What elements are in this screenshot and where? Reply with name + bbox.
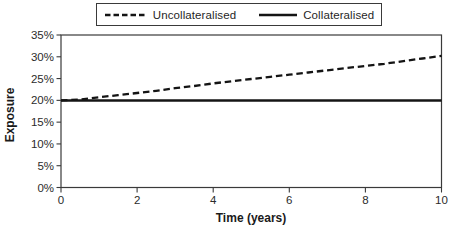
y-tick-label: 35% [31, 29, 54, 41]
x-tick-label: 2 [134, 194, 140, 206]
y-tick-label: 5% [37, 160, 54, 172]
plot-border [61, 35, 442, 188]
y-tick-label: 25% [31, 73, 54, 85]
plot-area: 0%5%10%15%20%25%30%35%0246810 [0, 0, 451, 238]
series-line-uncollateralised [61, 56, 442, 101]
y-tick-label: 20% [31, 94, 54, 106]
x-tick-label: 8 [362, 194, 368, 206]
x-tick-label: 6 [286, 194, 292, 206]
x-axis-title: Time (years) [216, 211, 286, 225]
x-tick-label: 10 [435, 194, 448, 206]
y-tick-label: 10% [31, 138, 54, 150]
x-tick-label: 4 [210, 194, 217, 206]
chart-figure: Uncollateralised Collateralised Exposure… [0, 0, 451, 238]
x-tick-label: 0 [58, 194, 64, 206]
y-tick-label: 30% [31, 51, 54, 63]
y-tick-label: 0% [37, 182, 54, 194]
y-tick-label: 15% [31, 116, 54, 128]
